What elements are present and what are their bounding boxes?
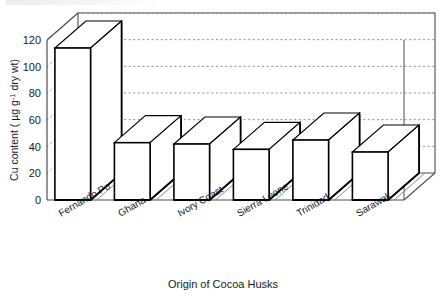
y-axis-title: Cu content ( µg g-1 dry wt): [8, 59, 20, 181]
svg-text:Cu content ( µg g-1 dry wt): Cu content ( µg g-1 dry wt): [8, 59, 20, 181]
bar-front-face: [55, 48, 91, 200]
y-tick-label: 20: [29, 167, 41, 179]
bar-front-face: [293, 140, 329, 200]
bar-sarawak: [352, 125, 419, 200]
bar-chart-3d: 020406080100120Cu content ( µg g-1 dry w…: [0, 0, 447, 296]
bar-fernando-po: [55, 21, 122, 200]
x-axis-title: Origin of Cocoa Husks: [168, 278, 279, 290]
y-tick-label: 60: [29, 114, 41, 126]
y-tick-label: 0: [35, 194, 41, 206]
y-tick-label: 80: [29, 87, 41, 99]
y-tick-label: 100: [23, 61, 41, 73]
bar-ivory-coast: [174, 117, 241, 200]
y-tick-label: 40: [29, 141, 41, 153]
bar-sierra-leone: [233, 122, 300, 200]
chart-figure: 020406080100120Cu content ( µg g-1 dry w…: [0, 0, 447, 296]
bar-front-face: [114, 143, 150, 200]
y-tick-label: 120: [23, 34, 41, 46]
